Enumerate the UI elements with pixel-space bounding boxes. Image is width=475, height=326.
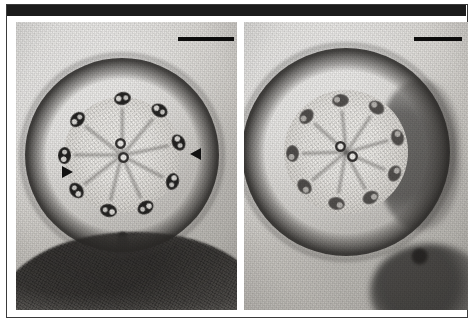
figure-root — [0, 0, 475, 326]
outer-doublet-microtubule — [57, 146, 71, 163]
radial-spoke — [74, 154, 122, 157]
axoneme-cross-section-right — [244, 48, 450, 256]
central-pair-microtubule — [115, 138, 126, 149]
central-pair-microtubule — [347, 151, 358, 162]
scale-bar-right — [414, 37, 462, 41]
arrowhead-annotation-right — [190, 148, 201, 160]
central-pair-microtubule — [335, 141, 346, 152]
header-band — [7, 5, 466, 16]
micrograph-panel-left[interactable] — [16, 22, 237, 310]
scale-bar-left — [178, 37, 234, 41]
micrograph-panel-right[interactable] — [244, 22, 468, 310]
micrograph-plate — [16, 22, 468, 310]
arrowhead-annotation-left — [62, 166, 73, 178]
central-pair-microtubule — [118, 152, 129, 163]
